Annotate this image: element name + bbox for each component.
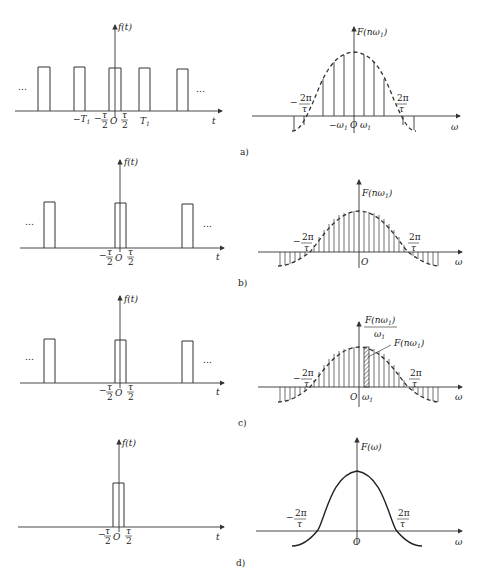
svg-text:τ: τ (105, 526, 111, 536)
svg-text:F(nω1): F(nω1) (364, 315, 396, 326)
svg-text:2π: 2π (300, 93, 312, 103)
panel-a-spectrum-plot: F(nω1) ω − 2π τ 2π τ −ω1 O ω1 (252, 27, 460, 133)
svg-text:2π: 2π (302, 232, 314, 242)
svg-text:2: 2 (105, 536, 111, 546)
y-axis-label: f(t) (117, 22, 132, 32)
origin-label: O (350, 120, 358, 130)
svg-text:ω1: ω1 (374, 329, 385, 340)
tick-2pi-tau: 2π τ (409, 368, 422, 389)
svg-text:−: − (286, 512, 294, 522)
caption-c: c) (238, 418, 247, 428)
y-axis-label: F(nω1) (356, 27, 388, 38)
tick-omega1: ω1 (360, 120, 371, 131)
x-axis-label: t (216, 252, 220, 262)
panel-d-time-plot: f(t) t − τ 2 O τ 2 (18, 438, 224, 546)
origin-label: O (115, 253, 123, 263)
svg-text:2π: 2π (295, 508, 307, 518)
pulse-train (38, 67, 188, 111)
tick-T1: T1 (140, 116, 150, 127)
svg-text:2π: 2π (398, 508, 410, 518)
y-axis-label: F(nω1) (361, 188, 393, 199)
panel-a-time-plot: … … f(t) t −T1 − τ 2 O τ 2 T1 (15, 22, 222, 130)
svg-text:−: − (290, 97, 298, 107)
tick-tau-half: τ 2 (127, 382, 134, 402)
tick-neg-omega1: −ω1 (329, 120, 348, 131)
y-axis-label: F(ω) (360, 442, 382, 452)
svg-text:2: 2 (107, 257, 113, 267)
origin-label: O (115, 388, 123, 398)
tick-tau-half: τ 2 (121, 110, 128, 130)
svg-text:τ: τ (302, 104, 308, 114)
svg-text:τ: τ (128, 247, 134, 257)
caption-a: a) (240, 147, 249, 157)
annotation-label: F(nω1) (393, 338, 425, 349)
x-axis-label: ω (455, 392, 463, 402)
caption-b: b) (238, 278, 247, 288)
fourier-pulse-figure: … … f(t) t −T1 − τ 2 O τ 2 T1 (0, 0, 481, 578)
svg-text:−: − (99, 250, 107, 260)
origin-label: O (350, 392, 358, 402)
tick-neg-2pi-tau: − 2π τ (293, 232, 314, 253)
svg-text:τ: τ (304, 243, 310, 253)
tick-2pi-tau: 2π τ (396, 93, 409, 114)
svg-text:2: 2 (122, 120, 128, 130)
origin-label: O (353, 537, 361, 547)
svg-text:τ: τ (102, 110, 108, 120)
svg-text:τ: τ (297, 519, 303, 529)
x-axis-label: ω (455, 537, 463, 547)
svg-text:−: − (94, 113, 102, 123)
hatched-strip (364, 347, 369, 387)
svg-text:τ: τ (411, 243, 417, 253)
tick-neg-T1: −T1 (73, 114, 90, 125)
svg-text:2: 2 (128, 392, 134, 402)
ellipsis-right: … (196, 84, 205, 94)
svg-text:−: − (293, 236, 301, 246)
tick-2pi-tau: 2π τ (408, 232, 421, 253)
svg-text:τ: τ (412, 379, 418, 389)
y-axis-label: f(t) (121, 438, 136, 448)
annotation-leader (368, 345, 391, 357)
y-axis-label-fraction: F(nω1) ω1 (364, 315, 397, 340)
panel-d-spectrum-plot: F(ω) ω − 2π τ 2π τ O (256, 438, 463, 547)
svg-text:2π: 2π (302, 368, 314, 378)
origin-label: O (361, 257, 369, 267)
panel-b-time-plot: … … f(t) t − τ 2 O τ 2 (20, 157, 224, 267)
tick-neg-tau-half: − τ 2 (98, 526, 111, 546)
x-axis-label: t (216, 532, 220, 542)
svg-text:2: 2 (128, 257, 134, 267)
svg-text:τ: τ (400, 519, 406, 529)
svg-text:2: 2 (126, 536, 132, 546)
svg-text:τ: τ (122, 110, 128, 120)
svg-text:2π: 2π (410, 368, 422, 378)
tick-omega1: ω1 (362, 392, 373, 403)
svg-text:2: 2 (107, 392, 113, 402)
tick-tau-half: τ 2 (125, 526, 132, 546)
svg-text:2: 2 (102, 120, 108, 130)
panel-c-spectrum-plot: F(nω1) ω1 F(nω1) ω − 2π τ 2π τ O ω1 (258, 315, 463, 407)
y-axis-label: f(t) (123, 157, 138, 167)
single-pulse (113, 483, 124, 527)
svg-text:τ: τ (107, 247, 113, 257)
ellipsis-left: … (18, 82, 27, 92)
caption-d: d) (236, 558, 245, 568)
ellipsis-left: … (25, 352, 34, 362)
svg-text:τ: τ (304, 379, 310, 389)
svg-text:τ: τ (128, 382, 134, 392)
svg-text:τ: τ (107, 382, 113, 392)
tick-2pi-tau: 2π τ (397, 508, 410, 529)
tick-neg-2pi-tau: − 2π τ (286, 508, 307, 529)
pulse-train (44, 202, 193, 248)
tick-neg-2pi-tau: − 2π τ (290, 93, 312, 114)
svg-text:2π: 2π (409, 232, 421, 242)
y-axis-label: f(t) (123, 294, 138, 304)
tick-neg-tau-half: − τ 2 (99, 382, 113, 402)
panel-c-time-plot: … … f(t) t − τ 2 O τ 2 (20, 294, 224, 402)
svg-text:−: − (293, 373, 301, 383)
svg-text:τ: τ (126, 526, 132, 536)
ellipsis-right: … (203, 355, 212, 365)
ellipsis-right: … (203, 219, 212, 229)
origin-label: O (110, 116, 118, 126)
x-axis-label: ω (455, 257, 463, 267)
svg-text:2π: 2π (397, 93, 409, 103)
ellipsis-left: … (25, 217, 34, 227)
